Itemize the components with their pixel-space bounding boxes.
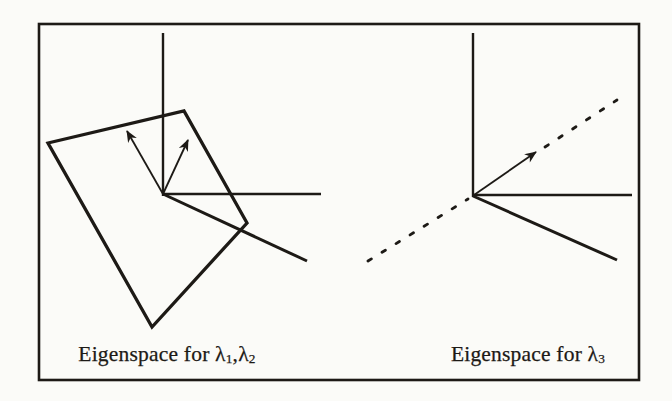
figure-border: [39, 24, 639, 380]
lambda-symbol: λ: [588, 342, 599, 366]
figure-page: Eigenspace for λ1,λ2 Eigenspace for λ3: [0, 0, 672, 401]
geometry-layer: [39, 24, 639, 380]
eigenline-dashed-upper: [545, 100, 617, 147]
caption-eigenspace-lambda3: Eigenspace for λ3: [451, 343, 605, 367]
figure-canvas: [0, 0, 672, 401]
lambda-subscript: 1: [226, 351, 233, 366]
caption-prefix: Eigenspace for: [78, 342, 215, 366]
lambda-symbol: λ: [238, 342, 249, 366]
caption-prefix: Eigenspace for: [451, 342, 588, 366]
lambda-symbol: λ: [215, 342, 226, 366]
eigenvector-arrow-1: [127, 131, 163, 194]
eigenvector-arrow-2: [163, 140, 188, 194]
lambda-subscript: 2: [249, 351, 256, 366]
eigenvector-arrow-3: [474, 152, 536, 195]
lambda-subscript: 3: [598, 351, 605, 366]
eigenline-dashed-lower: [368, 199, 468, 261]
caption-eigenspace-lambda12: Eigenspace for λ1,λ2: [78, 343, 255, 367]
right-panel-depth-axis: [473, 196, 617, 260]
